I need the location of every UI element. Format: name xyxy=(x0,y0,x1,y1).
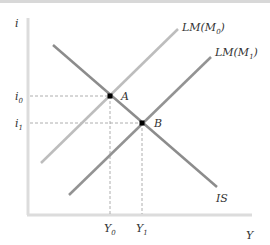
is-lm-diagram: i Y LM(M0) LM(M1) IS A B i0 i1 Y0 Y1 xyxy=(0,0,270,245)
point-a-label: A xyxy=(120,90,129,103)
i0-label: i0 xyxy=(15,90,24,105)
y0-label: Y0 xyxy=(104,222,116,237)
x-axis-label: Y xyxy=(246,229,255,242)
lm-m0-label: LM(M0) xyxy=(181,21,225,36)
is-label: IS xyxy=(215,192,228,205)
point-b-label: B xyxy=(153,117,162,130)
i1-label: i1 xyxy=(15,117,23,132)
point-a-marker xyxy=(108,94,113,99)
point-b-marker xyxy=(140,121,145,126)
y1-label: Y1 xyxy=(136,222,148,237)
y-axis-label: i xyxy=(15,17,19,30)
lm-m1-label: LM(M1) xyxy=(214,46,258,61)
is-curve xyxy=(53,45,217,187)
